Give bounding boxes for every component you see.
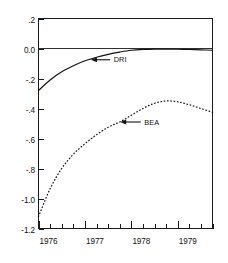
y-axis-tick-label: -1.0: [21, 196, 35, 205]
y-axis-tick-label: -.2: [26, 76, 36, 85]
x-axis-tick-label: 1978: [132, 237, 150, 246]
y-axis-tick-labels: .20.0-.2-.4-.6-.8-1.0-1.2: [21, 16, 35, 235]
series-annotations-group: DRIBEA: [91, 55, 159, 126]
x-axis-tick-label: 1976: [40, 237, 58, 246]
y-axis-ticks: [39, 20, 44, 230]
chart-figure: .20.0-.2-.4-.6-.8-1.0-1.2 19761977197819…: [0, 0, 228, 263]
x-axis-ticks: [40, 221, 214, 229]
y-axis-tick-label: -.4: [26, 106, 36, 115]
data-series-group: [39, 49, 213, 216]
line-chart-svg: .20.0-.2-.4-.6-.8-1.0-1.2 19761977197819…: [0, 0, 228, 263]
annotation-label-dri: DRI: [114, 55, 127, 64]
y-axis-tick-label: -1.2: [21, 226, 35, 235]
x-axis-tick-label: 1979: [179, 237, 197, 246]
y-axis-tick-label: 0.0: [24, 46, 36, 55]
series-line-bea: [39, 101, 213, 217]
x-axis-tick-label: 1977: [86, 237, 104, 246]
y-axis-tick-label: -.8: [26, 166, 36, 175]
x-axis-tick-labels: 1976197719781979: [40, 237, 198, 246]
annotation-label-bea: BEA: [144, 118, 159, 127]
y-axis-tick-label: -.6: [26, 136, 36, 145]
y-axis-tick-label: .2: [28, 16, 35, 25]
